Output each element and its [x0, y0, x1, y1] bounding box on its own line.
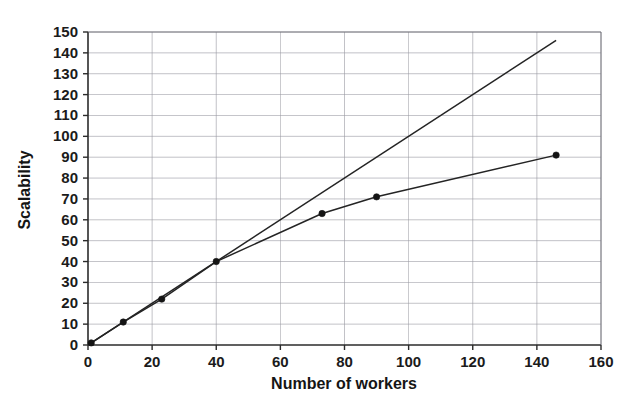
y-tick-label: 120 [53, 86, 78, 103]
y-tick-label: 90 [61, 148, 78, 165]
x-tick-label: 100 [396, 353, 421, 370]
y-tick-label: 150 [53, 23, 78, 40]
data-point-marker [120, 319, 126, 325]
y-tick-label: 40 [61, 253, 78, 270]
y-tick-label: 50 [61, 232, 78, 249]
x-tick-label: 60 [272, 353, 289, 370]
x-axis-title: Number of workers [271, 375, 417, 392]
data-point-marker [213, 258, 219, 264]
chart-background [0, 0, 643, 403]
data-point-marker [553, 152, 559, 158]
x-tick-label: 120 [460, 353, 485, 370]
y-tick-label: 110 [54, 106, 78, 123]
scalability-chart: 0102030405060708090100110120130140150020… [0, 0, 643, 403]
y-tick-label: 60 [61, 211, 78, 228]
x-tick-label: 40 [208, 353, 225, 370]
y-tick-label: 10 [61, 315, 78, 332]
y-tick-label: 30 [61, 273, 78, 290]
y-tick-label: 70 [61, 190, 78, 207]
x-tick-label: 80 [336, 353, 353, 370]
y-tick-label: 20 [61, 294, 78, 311]
y-axis-title: Scalability [16, 150, 33, 229]
x-tick-label: 20 [144, 353, 161, 370]
y-tick-label: 100 [53, 127, 78, 144]
x-tick-label: 0 [84, 353, 92, 370]
x-tick-label: 160 [588, 353, 613, 370]
y-tick-label: 140 [53, 44, 78, 61]
y-tick-label: 130 [53, 65, 78, 82]
chart-canvas: 0102030405060708090100110120130140150020… [0, 0, 643, 403]
x-tick-label: 140 [524, 353, 549, 370]
data-point-marker [319, 210, 325, 216]
data-point-marker [88, 340, 94, 346]
data-point-marker [373, 194, 379, 200]
y-tick-label: 80 [61, 169, 78, 186]
data-point-marker [159, 296, 165, 302]
y-tick-label: 0 [70, 336, 78, 353]
